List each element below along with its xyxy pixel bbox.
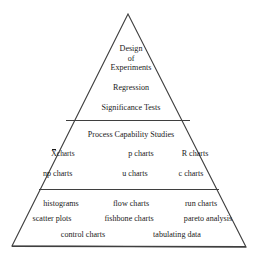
- pyramid-label-xbar-charts: Xcharts: [41, 149, 113, 158]
- tier3-row-two: scatter plots fishbone charts pareto ana…: [0, 214, 262, 223]
- pyramid-base-line: [12, 246, 246, 247]
- tier1-row-design-of-experiments: Design: [0, 44, 262, 53]
- pyramid-label-fishbone-charts: fishbone charts: [89, 214, 169, 223]
- tier1-row-significance-tests: Significance Tests: [0, 103, 262, 112]
- tier1-row-of: of: [0, 54, 262, 63]
- pyramid-label-p-charts: p charts: [113, 149, 169, 158]
- tier2-row-attribute-charts: np charts u charts c charts: [0, 169, 262, 178]
- xbar-charts-suffix: charts: [57, 149, 75, 158]
- pyramid-label-group: Design: [120, 44, 143, 53]
- tier1-row-experiments: Experiments: [0, 63, 262, 72]
- pyramid-label-r-charts: R charts: [169, 149, 221, 158]
- pyramid-label-np-charts: np charts: [43, 169, 107, 178]
- tier2-row-process-capability-studies: Process Capability Studies: [0, 130, 262, 139]
- pyramid-label-flow-charts: flow charts: [95, 199, 167, 208]
- pyramid-label-tabulating-data: tabulating data: [129, 230, 225, 239]
- tier3-row-one: histograms flow charts run charts: [0, 199, 262, 208]
- tier2-row-variable-charts: Xcharts p charts R charts: [0, 149, 262, 158]
- pyramid-label-experiments: Experiments: [111, 63, 152, 72]
- pyramid-label-of: of: [128, 54, 135, 63]
- pyramid-label-pareto-analysis: pareto analysis: [169, 214, 247, 223]
- tier1-row-regression: Regression: [0, 83, 262, 92]
- pyramid-label-scatter-plots: scatter plots: [15, 214, 89, 223]
- pyramid-label-run-charts: run charts: [167, 199, 235, 208]
- pyramid-label-design: Design: [120, 44, 143, 53]
- tier3-row-three: control charts tabulating data: [0, 230, 262, 239]
- pyramid-diagram: Design of Experiments Regression Signifi…: [0, 0, 262, 263]
- pyramid-label-c-charts: c charts: [163, 169, 219, 178]
- xbar-overbar-symbol: X: [51, 149, 57, 158]
- pyramid-label-process-capability-studies: Process Capability Studies: [88, 130, 174, 139]
- pyramid-label-control-charts: control charts: [37, 230, 129, 239]
- pyramid-label-significance-tests: Significance Tests: [102, 103, 161, 112]
- pyramid-label-u-charts: u charts: [107, 169, 163, 178]
- pyramid-label-histograms: histograms: [27, 199, 95, 208]
- pyramid-label-regression: Regression: [113, 83, 149, 92]
